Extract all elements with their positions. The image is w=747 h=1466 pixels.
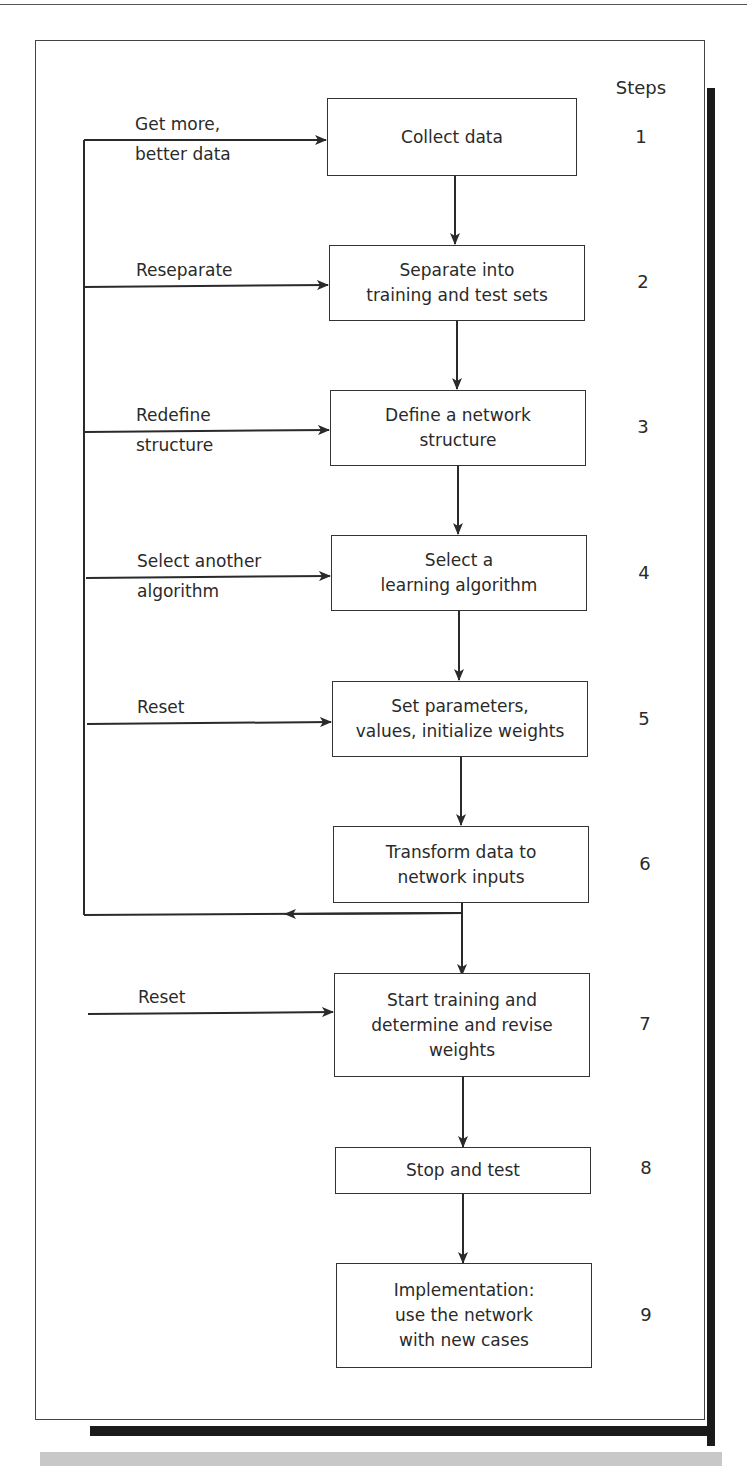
step-number-4: 4 xyxy=(624,562,664,583)
steps-header: Steps xyxy=(608,77,674,98)
feedback-label-reset-parameters: Reset xyxy=(137,692,185,722)
step-number-2: 2 xyxy=(623,271,663,292)
step-number-5: 5 xyxy=(624,708,664,729)
step-number-6: 6 xyxy=(625,853,665,874)
step-number-9: 9 xyxy=(626,1304,666,1325)
step-number-8: 8 xyxy=(626,1157,666,1178)
feedback-label-select-another-algorithm: Select another algorithm xyxy=(137,546,261,606)
step-box-3: Define a network structure xyxy=(330,390,586,466)
step-box-4: Select a learning algorithm xyxy=(331,535,587,611)
step-number-7: 7 xyxy=(625,1013,665,1034)
step-box-1: Collect data xyxy=(327,98,577,176)
feedback-label-reset-training: Reset xyxy=(138,982,186,1012)
feedback-label-redefine-structure: Redefine structure xyxy=(136,400,213,460)
step-box-2: Separate into training and test sets xyxy=(329,245,585,321)
step-number-1: 1 xyxy=(621,126,661,147)
step-box-9: Implementation: use the network with new… xyxy=(336,1263,592,1368)
step-box-5: Set parameters, values, initialize weigh… xyxy=(332,681,588,757)
step-number-3: 3 xyxy=(623,416,663,437)
step-box-8: Stop and test xyxy=(335,1147,591,1194)
step-box-7: Start training and determine and revise … xyxy=(334,973,590,1077)
feedback-label-reseparate: Reseparate xyxy=(136,255,233,285)
step-box-6: Transform data to network inputs xyxy=(333,826,589,903)
feedback-label-get-more-data: Get more, better data xyxy=(135,109,231,169)
